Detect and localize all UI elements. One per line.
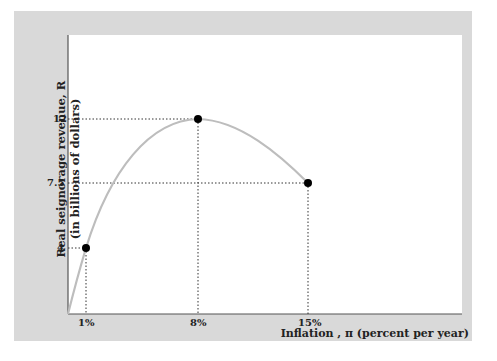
x-tick-8pct: 8% <box>190 317 206 328</box>
point-8pct <box>194 115 202 123</box>
guide-lines <box>68 119 308 314</box>
seignorage-curve <box>68 119 308 314</box>
y-tick-4: 4 <box>57 242 64 253</box>
y-tick-7.5: 7.5 <box>47 177 64 188</box>
y-axis-label: Real seignorage revenue, R (in billions … <box>54 39 82 299</box>
point-1pct <box>82 244 90 252</box>
y-tick-12: 12 <box>53 113 67 124</box>
x-axis-label: Inflation , π (percent per year) <box>281 327 469 340</box>
x-tick-1pct: 1% <box>78 317 94 328</box>
point-15pct <box>304 179 312 187</box>
